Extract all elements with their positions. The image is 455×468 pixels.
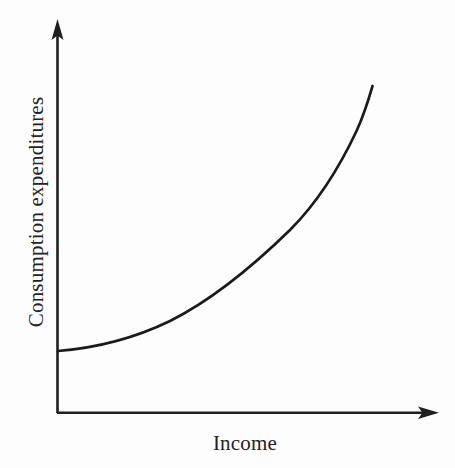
x-axis-label: Income (145, 430, 345, 456)
consumption-function-curve (58, 86, 373, 351)
consumption-function-plot (0, 0, 455, 468)
chart-figure: Consumption expenditures Income (0, 0, 455, 468)
y-axis-label: Consumption expenditures (23, 62, 49, 362)
